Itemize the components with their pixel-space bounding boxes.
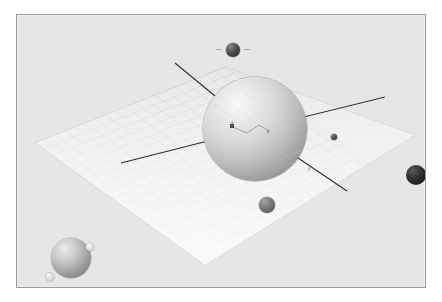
moon-lower-left[interactable] [46,273,54,281]
scene-viewport[interactable]: z x y [16,14,426,288]
axis-label-y: y [308,165,311,171]
small-body-top[interactable] [226,43,240,57]
planet-lower-left[interactable] [51,238,91,278]
scene-frame: z x y [0,0,442,302]
small-body-lower-center[interactable] [259,197,275,213]
moon-upper-right[interactable] [86,243,94,251]
small-body-right-edge[interactable] [406,165,426,185]
dot-body-right-of-planet[interactable] [331,134,337,140]
axis-label-z: z [231,121,233,126]
axis-label-x: x [267,129,269,134]
tick-right-of-top-body [244,49,250,50]
tick-left-of-top-body [216,49,222,50]
